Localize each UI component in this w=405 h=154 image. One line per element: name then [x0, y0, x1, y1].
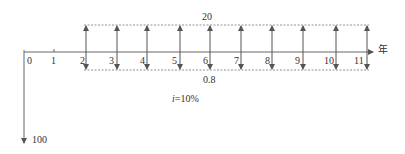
period-label-11: 11	[354, 56, 364, 66]
axis-unit-label: 年	[378, 45, 388, 55]
period-label-3: 3	[109, 56, 114, 66]
outflow-amount-label: 0.8	[203, 75, 216, 85]
period-label-5: 5	[172, 56, 177, 66]
interest-rate-label: i=10%	[172, 94, 199, 104]
period-label-8: 8	[265, 56, 270, 66]
period-label-10: 10	[324, 56, 334, 66]
initial-outflow-label: 100	[32, 135, 47, 145]
period-label-1: 1	[51, 56, 56, 66]
interest-rate-value: =10%	[175, 93, 199, 104]
period-label-9: 9	[295, 56, 300, 66]
inflow-arrows	[86, 26, 367, 52]
inflow-amount-label: 20	[202, 12, 212, 22]
period-label-4: 4	[140, 56, 145, 66]
period-label-7: 7	[234, 56, 239, 66]
period-label-0: 0	[27, 56, 32, 66]
period-label-2: 2	[80, 56, 85, 66]
period-label-6: 6	[203, 56, 208, 66]
